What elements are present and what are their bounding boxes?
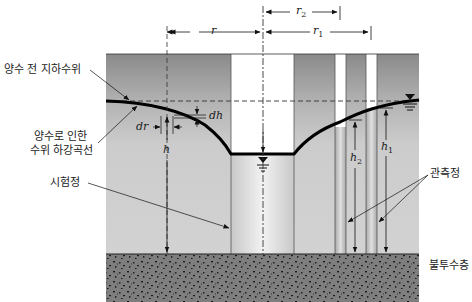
impermeable-layer <box>106 254 419 302</box>
var-dh: dh <box>209 110 223 122</box>
var-h2: h2 <box>350 152 362 168</box>
observation-well-2-upper <box>335 54 346 127</box>
observation-well-2-lower <box>335 127 346 254</box>
label-drawdown-curve-2: 수위 하강곡선 <box>30 144 94 157</box>
label-observation-wells: 관측정 <box>430 167 460 180</box>
test-well-upper <box>231 54 294 154</box>
var-r1: r1 <box>313 25 323 41</box>
var-r2: r2 <box>296 5 306 21</box>
label-original-water-table: 양수 전 지하수위 <box>4 63 81 76</box>
test-well-lower <box>231 154 294 254</box>
label-test-well: 시험정 <box>50 176 80 189</box>
var-h: h <box>163 144 170 156</box>
observation-well-1-lower <box>366 108 377 254</box>
observation-well-1-upper <box>366 54 377 108</box>
var-h1: h1 <box>381 141 393 157</box>
pumping-test-diagram: 양수 전 지하수위 양수로 인한 수위 하강곡선 시험정 관측정 불투수층 r … <box>0 0 472 302</box>
var-dr: dr <box>136 121 148 133</box>
var-r: r <box>211 25 216 37</box>
label-impermeable-layer: 불투수층 <box>429 259 469 272</box>
label-drawdown-curve-1: 양수로 인한 <box>34 130 88 143</box>
